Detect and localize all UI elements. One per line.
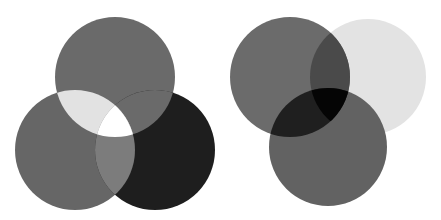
additive-venn: [15, 17, 215, 210]
venn-figure: [0, 0, 441, 220]
subtractive-venn: [230, 17, 426, 206]
